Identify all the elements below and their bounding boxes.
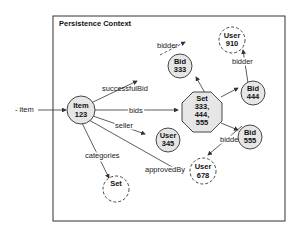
edge-label-bidder-333: bidder — [157, 41, 178, 50]
svg-text:910: 910 — [226, 39, 239, 48]
external-item-label: - item — [15, 105, 34, 114]
svg-text:Set: Set — [110, 179, 122, 188]
edge-label-bidder-444: bidder — [232, 57, 253, 66]
node-bid-444: Bid 444 — [241, 81, 265, 105]
node-bid-555: Bid 555 — [238, 125, 262, 149]
node-categories-set: Set — [103, 176, 129, 202]
edge-label-categories: categories — [85, 151, 120, 160]
svg-text:555: 555 — [244, 136, 257, 145]
node-bid-333: Bid 333 — [168, 54, 192, 78]
edge-label-successfulbid: successfulBid — [102, 84, 148, 93]
node-user-910: User 910 — [219, 27, 245, 53]
edge-label-seller: seller — [115, 121, 133, 130]
svg-text:123: 123 — [75, 110, 88, 119]
svg-text:Item: Item — [73, 101, 89, 110]
svg-text:444: 444 — [247, 92, 260, 101]
edge-label-bids: bids — [129, 106, 143, 115]
svg-text:User: User — [195, 162, 212, 171]
svg-text:555: 555 — [196, 118, 209, 127]
edge-label-approvedby: approvedBy — [145, 165, 185, 174]
diagram-canvas: Persistence Context - item successfulBid… — [0, 0, 298, 234]
container-title: Persistence Context — [59, 19, 132, 28]
svg-text:345: 345 — [162, 139, 175, 148]
svg-text:333: 333 — [174, 65, 187, 74]
svg-text:678: 678 — [197, 171, 210, 180]
node-bids-set: Set 333, 444, 555 — [182, 92, 222, 132]
node-user-678: User 678 — [190, 158, 216, 184]
node-item-123: Item 123 — [67, 96, 95, 124]
node-user-345: User 345 — [156, 128, 180, 152]
